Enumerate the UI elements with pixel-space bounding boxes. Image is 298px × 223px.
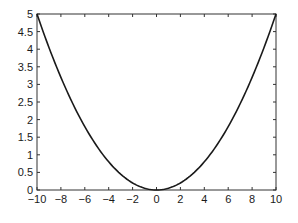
y-tick-label: 1.5 (18, 131, 33, 143)
parabola-chart: −10−8−6−4−20246810 00.511.522.533.544.55 (0, 0, 298, 223)
x-tick-label: 10 (270, 193, 282, 205)
y-tick-label: 2.5 (18, 96, 33, 108)
y-tick-label: 4 (27, 43, 33, 55)
y-tick-label: 0 (27, 184, 33, 196)
y-tick-label: 1 (27, 149, 33, 161)
x-axis: −10−8−6−4−20246810 (28, 14, 282, 205)
x-tick-label: 6 (225, 193, 231, 205)
x-tick-label: 2 (177, 193, 183, 205)
x-tick-label: −6 (79, 193, 92, 205)
data-line (37, 14, 276, 190)
y-axis: 00.511.522.533.544.55 (18, 8, 276, 196)
x-tick-label: −8 (55, 193, 68, 205)
x-tick-label: 8 (249, 193, 255, 205)
x-tick-label: 4 (201, 193, 207, 205)
y-tick-label: 4.5 (18, 26, 33, 38)
x-tick-label: 0 (153, 193, 159, 205)
y-tick-label: 5 (27, 8, 33, 20)
y-tick-label: 3 (27, 78, 33, 90)
y-tick-label: 2 (27, 114, 33, 126)
y-tick-label: 0.5 (18, 166, 33, 178)
x-tick-label: −4 (102, 193, 115, 205)
x-tick-label: −2 (126, 193, 139, 205)
y-tick-label: 3.5 (18, 61, 33, 73)
